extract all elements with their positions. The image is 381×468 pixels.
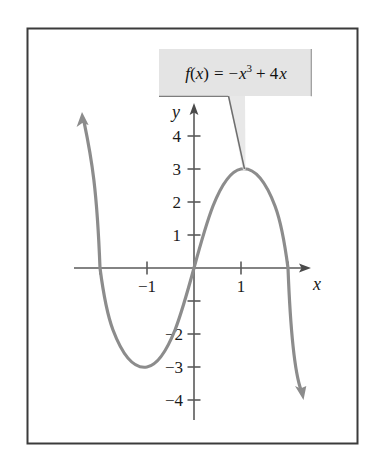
formula-close-paren: )	[203, 64, 209, 83]
figure-container: −1 1 4 3 2 1 −2 −3 −4 x y	[0, 0, 381, 468]
y-tick-label-1: 1	[173, 226, 182, 245]
graph-figure: −1 1 4 3 2 1 −2 −3 −4 x y	[0, 0, 381, 468]
x-axis-label: x	[312, 274, 321, 294]
y-tick-label--4: −4	[165, 391, 184, 410]
y-tick-label-3: 3	[173, 160, 182, 179]
formula-callout-box: f(x)=−x3+4x	[159, 49, 312, 96]
formula-plus: +	[256, 64, 266, 83]
formula-neg: −	[228, 64, 238, 83]
formula-linear-var: x	[278, 64, 287, 83]
x-tick-label-1: 1	[237, 277, 246, 296]
y-axis-label: y	[170, 102, 180, 122]
formula-exponent: 3	[247, 62, 253, 74]
y-tick-label--3: −3	[165, 358, 183, 377]
y-tick-label-4: 4	[173, 127, 182, 146]
y-tick-label-2: 2	[173, 193, 182, 212]
formula-expression: f(x)=−x3+4x	[185, 62, 287, 83]
formula-coefficient: 4	[270, 64, 279, 83]
x-tick-label--1: −1	[138, 277, 156, 296]
formula-equals: =	[214, 64, 224, 83]
